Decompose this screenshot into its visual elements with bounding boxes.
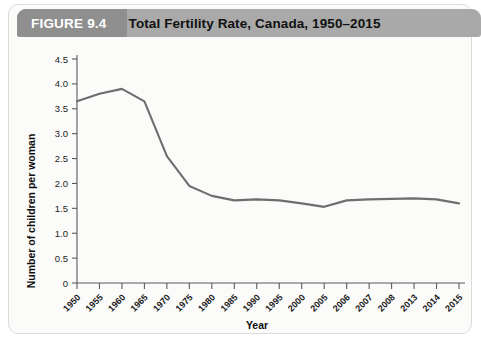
- y-axis-title: Number of children per woman: [25, 134, 37, 289]
- y-tick-label: 3.5: [55, 103, 68, 114]
- y-tick-label: 0.5: [55, 253, 68, 264]
- x-axis: 1950195519601965197019751980198519901995…: [61, 283, 465, 314]
- x-axis-title: Year: [246, 319, 268, 331]
- y-tick-label: 2.5: [55, 153, 68, 164]
- x-tick-label: 2013: [398, 292, 419, 313]
- y-axis: 00.51.01.52.02.53.03.54.04.5: [55, 54, 77, 289]
- x-tick-label: 2005: [308, 292, 329, 313]
- x-tick-label: 2015: [443, 292, 464, 313]
- x-tick-label: 1985: [218, 292, 239, 313]
- x-tick-label: 1955: [84, 292, 105, 313]
- x-tick-label: 1990: [241, 292, 262, 313]
- y-tick-label: 4.5: [55, 54, 68, 65]
- y-tick-label: 1.0: [55, 228, 68, 239]
- fertility-rate-line-chart: 00.51.01.52.02.53.03.54.04.5 19501955196…: [17, 41, 481, 337]
- x-tick-label: 1995: [263, 292, 284, 313]
- chart-plot-region: 00.51.01.52.02.53.03.54.04.5 19501955196…: [17, 41, 481, 337]
- x-tick-label: 1980: [196, 292, 217, 313]
- x-tick-label: 1970: [151, 292, 172, 313]
- y-tick-label: 3.0: [55, 128, 68, 139]
- x-tick-label: 2014: [421, 292, 442, 313]
- x-tick-label: 2008: [376, 292, 397, 313]
- x-tick-label: 1965: [129, 292, 150, 313]
- x-tick-label: 1960: [106, 292, 127, 313]
- data-series-total-fertility-rate: [77, 89, 459, 207]
- y-tick-label: 0: [63, 278, 68, 289]
- figure-card: FIGURE 9.4 Total Fertility Rate, Canada,…: [8, 4, 472, 334]
- y-tick-label: 1.5: [55, 203, 68, 214]
- x-tick-label: 2007: [353, 292, 374, 313]
- figure-banner: FIGURE 9.4 Total Fertility Rate, Canada,…: [17, 9, 481, 37]
- x-tick-label: 1950: [61, 292, 82, 313]
- x-tick-label: 2000: [286, 292, 307, 313]
- y-tick-label: 4.0: [55, 78, 68, 89]
- x-tick-label: 1975: [174, 292, 195, 313]
- figure-number-label: FIGURE 9.4: [31, 16, 107, 31]
- x-tick-label: 2006: [331, 292, 352, 313]
- y-tick-label: 2.0: [55, 178, 68, 189]
- figure-title-label: Total Fertility Rate, Canada, 1950–2015: [129, 16, 381, 31]
